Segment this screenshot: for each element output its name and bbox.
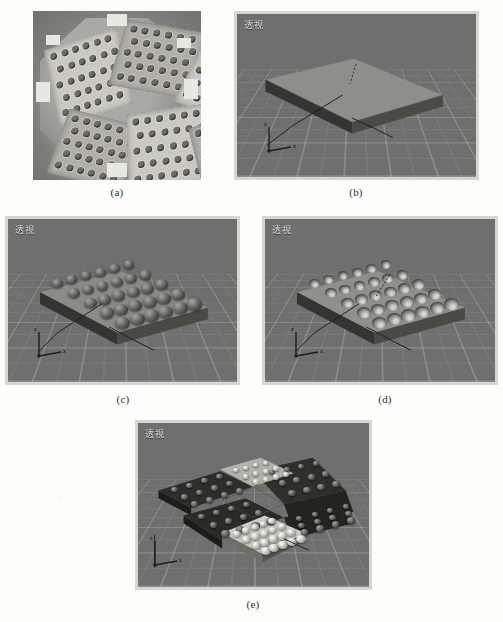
photo-perforation [89, 54, 97, 63]
facet-bump [171, 487, 177, 492]
facet-bump [332, 521, 340, 527]
surface-bump [381, 260, 392, 269]
photo-corner-clamp [184, 79, 197, 99]
photo-perforation [105, 93, 113, 102]
surface-bump [414, 293, 428, 304]
photo-perforation [94, 97, 102, 106]
facet-bump [284, 467, 290, 472]
svg-text:z: z [291, 326, 294, 332]
photo-perforation [146, 52, 155, 60]
facet-bump [296, 516, 302, 521]
viewport-b[interactable]: 透视 z x [234, 11, 479, 180]
facet-bump [226, 481, 233, 487]
surface-bump [338, 271, 349, 280]
surface-bump [82, 285, 94, 295]
facet-bump [313, 461, 319, 466]
photo-perforation [134, 50, 143, 58]
facet-bump [255, 510, 263, 516]
photo-perforation [123, 48, 132, 56]
photo-perforation [62, 150, 71, 158]
facet-bump [322, 471, 329, 477]
surface-bump [385, 300, 399, 311]
facet-bump [278, 523, 287, 530]
facet-bump [236, 488, 244, 494]
photo-perforation [182, 140, 189, 148]
surface-bump [339, 285, 351, 295]
photo-perforation [67, 61, 75, 70]
photo-perforation [100, 51, 108, 60]
photo-perforation [162, 157, 169, 165]
surface-bump [415, 306, 430, 318]
facet-bump [268, 518, 276, 524]
facet-bump [263, 477, 270, 482]
facet-bump [210, 522, 218, 528]
facet-bump [263, 461, 268, 465]
photo-perforation [171, 170, 178, 178]
viewport-d[interactable]: 透视 z x [262, 216, 498, 385]
surface-bump [387, 313, 402, 325]
viewport-label-b: 透视 [244, 18, 264, 31]
surface-bump [398, 283, 411, 294]
photo-perforation [153, 41, 162, 49]
facet-bump [308, 474, 315, 480]
facet-bump [253, 471, 259, 476]
photo-perforation [50, 52, 58, 61]
caption-d: (d) [361, 393, 409, 405]
axis-tripod-icon-c: z x [31, 322, 77, 362]
photo-perforation [141, 26, 150, 34]
facet-bump [243, 466, 248, 470]
facet-bump [228, 506, 235, 512]
photo-perforation [116, 71, 125, 79]
viewport-e[interactable]: 透视 [135, 420, 372, 590]
photo-perforation [95, 145, 104, 153]
surface-bump [98, 294, 111, 305]
surface-bump [187, 298, 202, 310]
surface-bump [157, 293, 171, 304]
axis-tripod-icon-b: z x [261, 117, 307, 157]
photo-perforation [157, 143, 164, 151]
svg-text:x: x [179, 557, 182, 563]
facet-bump [260, 530, 269, 537]
facet-bump [329, 515, 336, 521]
photo-corner-clamp [36, 82, 49, 102]
surface-bump [68, 288, 80, 298]
photo-perforation [158, 171, 165, 179]
figure-b: 透视 z x [234, 11, 479, 180]
photo-perforation [114, 125, 123, 133]
facet-bump [278, 532, 287, 539]
surface-bump [341, 298, 354, 309]
facet-bump [196, 490, 203, 496]
facet-bump [273, 466, 279, 471]
photo-perforation-group [132, 109, 201, 180]
facet-bump [283, 472, 290, 477]
photo-perforation [142, 39, 151, 47]
surface-bump [52, 279, 63, 288]
caption-e: (e) [229, 598, 277, 610]
facet-bump [263, 469, 269, 474]
photo-perforation [99, 66, 107, 75]
facet-bump [287, 529, 296, 536]
surface-bump [155, 279, 168, 290]
surface-bump [124, 260, 135, 269]
photo-perforation [73, 89, 81, 98]
surface-bump [109, 264, 120, 273]
photo-perforation [181, 112, 188, 120]
photo-perforation [61, 49, 69, 58]
photo-perforation [54, 160, 63, 168]
surface-bump [369, 290, 382, 301]
photo-perforation [144, 117, 151, 125]
photo-perforation [84, 85, 92, 94]
photo-perforation [173, 127, 180, 135]
photo-perforation [150, 158, 157, 166]
facet-bump [317, 484, 325, 490]
facet-bump [316, 525, 324, 531]
photo-perforation [161, 128, 168, 136]
photo-perforation [83, 100, 91, 109]
surface-bump [444, 298, 459, 310]
surface-bump [97, 281, 109, 291]
surface-bump [115, 317, 130, 329]
viewport-c[interactable]: 透视 z x [5, 216, 240, 385]
facet-bump [345, 511, 352, 517]
photo-perforation [146, 64, 155, 72]
photo-perforation [92, 132, 101, 140]
